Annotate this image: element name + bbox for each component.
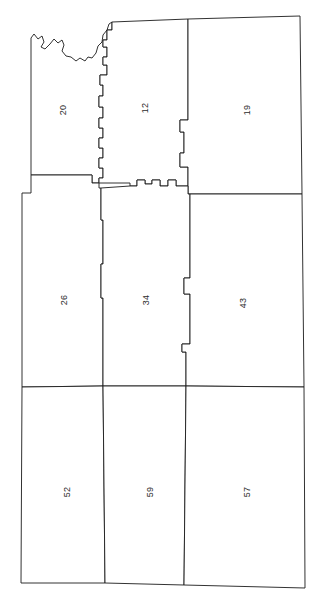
- region-label-26: 26: [60, 295, 69, 306]
- region-shape-52[interactable]: [21, 386, 105, 583]
- region-shape-59[interactable]: [103, 386, 186, 585]
- map-container: 20 12 19 26 34 43 52 59 57: [0, 0, 321, 605]
- region-label-34: 34: [142, 295, 151, 306]
- map-svg: [0, 0, 321, 605]
- region-label-59: 59: [146, 487, 155, 498]
- region-label-52: 52: [63, 487, 72, 498]
- region-shape-43[interactable]: [182, 194, 304, 387]
- region-shape-26[interactable]: [22, 175, 103, 387]
- region-label-19: 19: [243, 105, 252, 116]
- region-label-43: 43: [239, 298, 248, 309]
- region-label-57: 57: [243, 487, 252, 498]
- region-shape-34[interactable]: [101, 180, 190, 386]
- region-label-20: 20: [59, 105, 68, 116]
- region-label-12: 12: [141, 103, 150, 114]
